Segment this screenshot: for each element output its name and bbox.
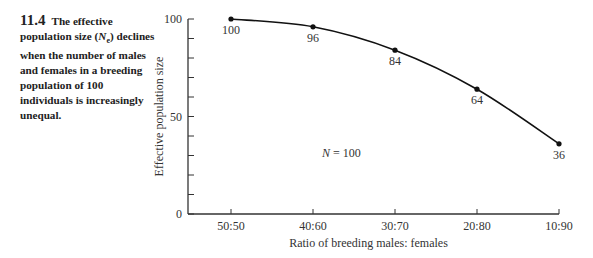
data-point (392, 48, 397, 53)
line-chart: 05010050:5040:6030:7020:8010:90Ratio of … (0, 0, 593, 258)
x-tick-label: 50:50 (217, 219, 244, 233)
data-label: 84 (389, 54, 401, 68)
y-tick-label: 50 (170, 110, 182, 124)
data-point (474, 87, 479, 92)
x-tick-label: 40:60 (299, 219, 326, 233)
data-label: 64 (471, 93, 483, 107)
data-point (310, 24, 315, 29)
data-point (228, 16, 233, 21)
x-axis-label: Ratio of breeding males: females (289, 236, 448, 250)
x-tick-label: 20:80 (463, 219, 490, 233)
y-tick-label: 0 (176, 207, 182, 221)
data-label: 36 (553, 148, 565, 162)
x-tick-label: 10:90 (545, 219, 572, 233)
data-label: 100 (222, 23, 240, 37)
data-line (231, 19, 559, 144)
y-axis-label: Effective population size (152, 57, 166, 177)
y-tick-label: 100 (164, 12, 182, 26)
sample-size-annotation: N = 100 (321, 146, 361, 160)
x-tick-label: 30:70 (381, 219, 408, 233)
data-point (556, 141, 561, 146)
data-label: 96 (307, 31, 319, 45)
